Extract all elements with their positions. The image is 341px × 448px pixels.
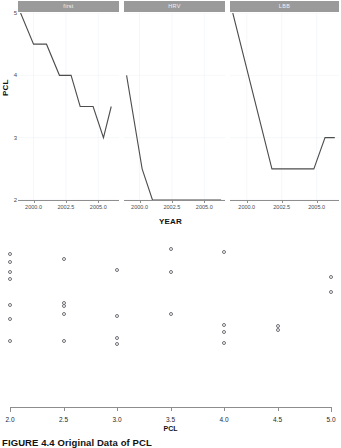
data-point [8,303,12,307]
facet-line-chart: PCL 2345 first 2000.02002.52005.0 HRV 20… [0,0,341,230]
line-series-3 [233,13,335,169]
data-point [169,312,173,316]
data-point [169,247,173,251]
x-tick-label-1: 2002.5 [163,204,180,210]
x-tick-mark-2 [117,407,118,411]
data-point [62,339,66,343]
x-tick-label-1: 2.5 [59,416,68,423]
facet-line-svg-3 [230,13,339,200]
pcl-strip-plot: PCL 2.02.53.03.54.04.55.0 [0,230,341,448]
y-tick-label-5: 5 [3,10,17,16]
x-tick-mark [317,200,318,203]
strip-plot-points-area [0,230,341,395]
x-tick-mark-6 [331,407,332,412]
data-point [8,252,12,256]
x-tick-label-0: 2000.0 [131,204,148,210]
y-tick-label-2: 2 [3,197,17,203]
data-point [8,260,12,264]
x-tick-mark [66,200,67,203]
facet-strip-3: LBB [230,1,339,12]
data-point [8,339,12,343]
facet-panel-2: HRV 2000.02002.52005.0 [124,0,225,212]
data-point [62,257,66,261]
data-point [115,336,119,340]
data-point [276,328,280,332]
x-tick-mark-1 [64,407,65,411]
x-tick-label-2: 3.0 [112,416,121,423]
data-point [8,270,12,274]
x-tick-mark [34,200,35,203]
data-point [222,323,226,327]
x-tick-label-2: 2005.0 [90,204,107,210]
facet-plot-area-1 [18,13,119,200]
grid-lines-1 [18,13,119,200]
data-point [276,324,280,328]
facet-plot-area-3 [230,13,339,200]
facet-strip-1: first [18,1,119,12]
x-tick-mark-3 [171,407,172,411]
facet-strip-label-2: HRV [124,1,225,12]
data-point [222,341,226,345]
x-tick-mark [140,200,141,203]
facet-strip-2: HRV [124,1,225,12]
x-tick-label-6: 5.0 [326,416,335,423]
x-tick-mark [98,200,99,203]
facet-strip-label-1: first [18,1,119,12]
grid-lines-2 [124,13,225,200]
data-point [8,317,12,321]
y-tick-label-3: 3 [3,135,17,141]
x-tick-mark-0 [10,407,11,412]
x-tick-mark [247,200,248,203]
facet-strip-label-3: LBB [230,1,339,12]
facet-line-svg-2 [124,13,225,200]
x-tick-label-2: 2005.0 [308,204,325,210]
facet-panel-3: LBB 2000.02002.52005.0 [230,0,339,212]
x-tick-label-0: 2.0 [5,416,14,423]
data-point [115,314,119,318]
x-tick-mark [282,200,283,203]
x-tick-label-3: 3.5 [166,416,175,423]
data-point [222,330,226,334]
data-point [62,312,66,316]
data-point [115,268,119,272]
data-point [329,275,333,279]
x-tick-label-2: 2005.0 [196,204,213,210]
x-axis-title: YEAR [0,217,341,226]
x-tick-mark-5 [278,407,279,411]
figure-caption: FIGURE 4.4 Original Data of PCL [2,437,341,448]
data-point [329,290,333,294]
x-tick-mark [172,200,173,203]
data-point [169,270,173,274]
y-axis-tick-labels: 2345 [0,0,17,230]
y-tick-label-4: 4 [3,72,17,78]
x-tick-label-0: 2000.0 [25,204,42,210]
data-point [8,277,12,281]
x-tick-label-0: 2000.0 [238,204,255,210]
data-point [62,304,66,308]
data-point [222,250,226,254]
strip-plot-axis-title: PCL [0,425,341,432]
x-tick-label-4: 4.0 [219,416,228,423]
data-point [115,342,119,346]
x-tick-mark [204,200,205,203]
x-tick-label-1: 2002.5 [273,204,290,210]
x-tick-mark-4 [224,407,225,411]
grid-lines-3 [230,13,339,200]
x-tick-label-1: 2002.5 [57,204,74,210]
facet-line-svg-1 [18,13,119,200]
x-tick-label-5: 4.5 [273,416,282,423]
facet-plot-area-2 [124,13,225,200]
facet-panel-1: first 2000.02002.52005.0 [18,0,119,212]
